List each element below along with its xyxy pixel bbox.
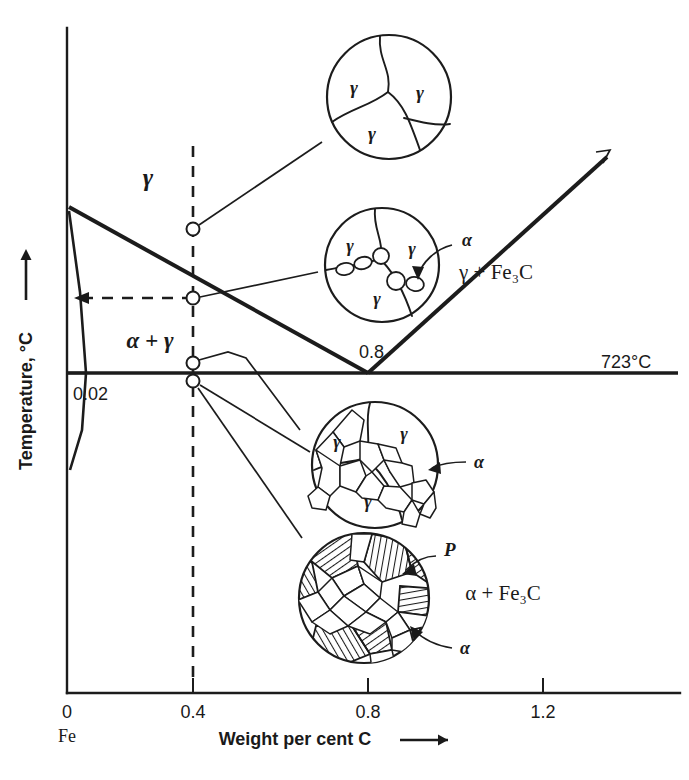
state-marker-a3-crossing	[187, 292, 200, 305]
leader-to-inset-3-upper	[199, 352, 300, 430]
y-axis-title: Temperature, °C	[16, 332, 36, 470]
x-tick-label-0.8: 0.8	[355, 702, 380, 722]
ferrite-solubility-label: 0.02	[73, 384, 108, 404]
inset-2-label-gamma-a: γ	[346, 236, 354, 256]
inset-ferrite-nucleation: γ γ γ α	[325, 208, 473, 322]
region-label-ferrite-cementite: α + Fe₃C	[465, 581, 541, 605]
x-tick-label-0.4: 0.4	[180, 702, 205, 722]
x-axis-origin-element-label: Fe	[58, 726, 76, 746]
inset-pearlite-ferrite: P α	[276, 533, 471, 670]
inset-3-label-gamma-c: γ	[364, 492, 372, 512]
state-marker-above-eutectoid	[187, 357, 200, 370]
inset-1-label-gamma-a: γ	[350, 77, 358, 98]
inset-2-label-alpha: α	[462, 230, 473, 250]
inset-3-label-alpha: α	[474, 452, 485, 472]
leader-line-group	[198, 142, 322, 538]
x-axis-title-group: Weight per cent C	[219, 729, 448, 749]
inset-2-label-gamma-c: γ	[373, 289, 381, 309]
pearlite-colony-5	[398, 586, 430, 616]
eutectoid-composition-label: 0.8	[359, 342, 384, 362]
inset-4-label-alpha: α	[460, 638, 471, 658]
region-label-ferrite-austenite: α + γ	[127, 328, 174, 353]
inset-4-alpha-callout: α	[410, 626, 471, 658]
y-axis-arrow-icon	[21, 249, 32, 300]
inset-4-microstructure	[276, 534, 452, 670]
inset-1-label-gamma-c: γ	[368, 123, 376, 144]
x-axis-arrow-icon	[400, 735, 448, 746]
inset-1-outline	[327, 35, 451, 159]
inset-austenite-grains: γ γ γ	[327, 35, 451, 159]
leader-to-inset-2	[200, 272, 318, 297]
state-marker-austenite	[187, 223, 200, 236]
inset-2-label-gamma-b: γ	[408, 239, 416, 259]
inset-1-label-gamma-b: γ	[416, 82, 424, 103]
region-label-austenite-cementite: γ + Fe₃C	[458, 260, 533, 284]
phase-diagram-svg: 0 0.4 0.8 1.2 Fe Weight per cent C Tempe…	[0, 0, 689, 780]
inset-ferrite-growth: γ γ γ α	[308, 402, 485, 528]
a3-boundary-line	[69, 207, 368, 373]
x-tick-label-1.2: 1.2	[530, 702, 555, 722]
x-tick-label-0: 0	[62, 702, 72, 722]
eutectoid-temperature-label: 723°C	[601, 352, 651, 372]
ferrite-solvus-right	[69, 211, 86, 470]
x-axis-title: Weight per cent C	[219, 729, 372, 749]
leader-to-inset-3-lower	[200, 385, 310, 452]
inset-4-label-pearlite: P	[443, 539, 456, 560]
construction-line-group	[74, 146, 193, 678]
y-axis-title-group: Temperature, °C	[16, 332, 36, 470]
state-marker-below-eutectoid	[187, 375, 200, 388]
region-label-austenite: γ	[143, 164, 154, 191]
inset-3-label-gamma-b: γ	[400, 424, 408, 444]
phase-diagram-figure: 0 0.4 0.8 1.2 Fe Weight per cent C Tempe…	[0, 0, 689, 780]
leader-to-inset-1	[199, 142, 322, 225]
inset-3-label-gamma-a: γ	[333, 432, 341, 452]
